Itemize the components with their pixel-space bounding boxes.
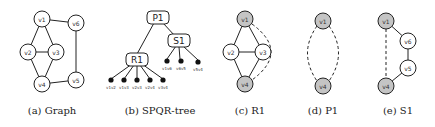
svg-text:v1v2: v1v2 [106, 85, 116, 90]
svg-text:v4: v4 [241, 81, 249, 88]
svg-text:v4: v4 [38, 81, 46, 88]
svg-text:v5v4: v5v4 [193, 67, 203, 72]
svg-text:v1: v1 [241, 16, 249, 23]
panel-spqr-tree: P1 S1 R1 v1v2 v1v3 v2v3 v2v4 v3v4 v1v6 v… [106, 11, 203, 116]
caption-p1: (d) P1 [308, 105, 338, 116]
svg-text:v2v4: v2v4 [145, 85, 155, 90]
caption-spqr-tree: (b) SPQR-tree [125, 105, 196, 116]
svg-text:v4: v4 [382, 83, 390, 90]
svg-text:v6v5: v6v5 [176, 66, 186, 71]
svg-text:S1: S1 [173, 36, 184, 46]
svg-text:v2: v2 [24, 49, 32, 56]
node-v3: v3 [255, 44, 271, 60]
svg-text:v2v3: v2v3 [132, 85, 142, 90]
svg-text:v3: v3 [52, 49, 60, 56]
s1-leaves: v1v6 v6v5 v5v4 [162, 58, 203, 72]
node-v1: v1 [315, 13, 331, 29]
svg-text:v5: v5 [404, 65, 412, 72]
panel-r1: v1 v2 v3 v4 (c) R1 [223, 11, 271, 116]
node-v1: v1 [34, 11, 50, 27]
svg-text:v6: v6 [404, 38, 412, 45]
node-v2: v2 [20, 44, 36, 60]
svg-text:v1v6: v1v6 [162, 66, 172, 71]
caption-s1: (e) S1 [383, 105, 413, 116]
node-v5: v5 [68, 72, 84, 88]
node-v5: v5 [400, 60, 416, 76]
svg-text:v1: v1 [38, 16, 46, 23]
spqr-figure: v1 v6 v2 v3 v4 v5 (a) Graph P1 S1 R1 v1v… [0, 0, 435, 127]
svg-text:v4: v4 [319, 83, 327, 90]
svg-text:P1: P1 [152, 13, 163, 23]
node-v3: v3 [48, 44, 64, 60]
tree-node-p1: P1 [147, 11, 169, 24]
node-v6: v6 [400, 33, 416, 49]
virtual-edge-right [329, 26, 339, 81]
virtual-edge-left [308, 26, 318, 81]
svg-text:v6: v6 [72, 20, 80, 27]
node-v6: v6 [68, 15, 84, 31]
node-v4: v4 [237, 76, 253, 92]
node-v4: v4 [34, 76, 50, 92]
caption-graph: (a) Graph [28, 105, 77, 116]
svg-text:v1v3: v1v3 [119, 85, 129, 90]
svg-text:v5: v5 [72, 77, 80, 84]
svg-text:v3v4: v3v4 [158, 85, 168, 90]
node-v4: v4 [378, 78, 394, 94]
caption-r1: (c) R1 [235, 105, 265, 116]
node-v4: v4 [315, 78, 331, 94]
panel-p1: v1 v4 (d) P1 [308, 13, 339, 116]
r1-leaves: v1v2 v1v3 v2v3 v2v4 v3v4 [106, 77, 168, 90]
svg-text:v1: v1 [382, 18, 390, 25]
panel-graph: v1 v6 v2 v3 v4 v5 (a) Graph [20, 11, 84, 116]
svg-text:v1: v1 [319, 18, 327, 25]
node-v1: v1 [237, 11, 253, 27]
node-v1: v1 [378, 13, 394, 29]
svg-text:v2: v2 [227, 49, 235, 56]
tree-node-r1: R1 [126, 53, 148, 66]
tree-edge-p1-r1 [137, 23, 154, 54]
panel-s1: v1 v6 v5 v4 (e) S1 [378, 13, 416, 116]
tree-node-s1: S1 [168, 34, 190, 47]
svg-text:R1: R1 [131, 55, 143, 65]
node-v2: v2 [223, 44, 239, 60]
svg-text:v3: v3 [259, 49, 267, 56]
